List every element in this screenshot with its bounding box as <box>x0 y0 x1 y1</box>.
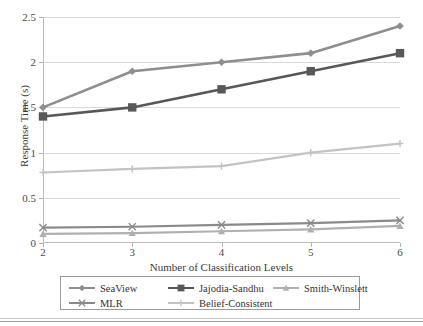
legend-label: Belief-Consistent <box>199 298 273 309</box>
chart-legend: SeaViewJajodia-SandhuSmith-WinslettMLRBe… <box>60 276 360 310</box>
data-point-marker <box>218 163 225 170</box>
y-tick-label: 1 <box>31 147 37 158</box>
data-point-marker <box>79 285 85 291</box>
data-point-marker <box>178 300 184 306</box>
series-seaview <box>39 22 404 111</box>
data-point-marker <box>396 22 404 30</box>
data-point-marker <box>307 149 314 156</box>
data-point-marker <box>396 49 404 57</box>
data-point-marker <box>129 165 136 172</box>
x-tick-label: 3 <box>130 247 136 258</box>
legend-label: Jajodia-Sandhu <box>199 283 264 294</box>
y-tick-label: 0 <box>31 238 37 249</box>
legend-square-icon <box>168 282 194 294</box>
legend-label: Smith-Winslett <box>304 283 368 294</box>
legend-label: MLR <box>100 298 123 309</box>
legend-plus-icon <box>168 297 194 309</box>
series-belief-consistent <box>39 140 403 176</box>
data-point-marker <box>396 140 403 147</box>
legend-item-belief-consistent[interactable]: Belief-Consistent <box>168 296 273 310</box>
data-point-marker <box>39 104 47 112</box>
data-series-layer <box>43 17 400 243</box>
legend-diamond-icon <box>69 282 95 294</box>
legend-item-mlr[interactable]: MLR <box>69 296 123 310</box>
legend-label: SeaView <box>100 283 137 294</box>
data-point-marker <box>218 58 226 66</box>
data-point-marker <box>307 49 315 57</box>
x-tick-label: 4 <box>219 247 225 258</box>
legend-item-smith-winslett[interactable]: Smith-Winslett <box>273 281 368 295</box>
footer-rule-bottom <box>0 321 423 322</box>
data-point-marker <box>307 67 315 75</box>
data-point-marker <box>128 67 136 75</box>
legend-item-seaview[interactable]: SeaView <box>69 281 137 295</box>
data-point-marker <box>79 300 85 306</box>
data-point-marker <box>39 112 47 120</box>
y-tick-label: 0.5 <box>22 192 36 203</box>
plot-area: 00.511.522.5 23456 <box>43 17 400 243</box>
legend-triangle-icon <box>273 282 299 294</box>
y-tick-label: 2.5 <box>22 12 36 23</box>
legend-cross-x-icon <box>69 297 95 309</box>
data-point-marker <box>39 169 46 176</box>
x-axis-title: Number of Classification Levels <box>43 261 400 273</box>
footer-rule-top <box>0 318 423 319</box>
y-tick-label: 1.5 <box>22 102 36 113</box>
series-line <box>43 26 400 107</box>
data-point-marker <box>217 85 225 93</box>
x-tick-label: 6 <box>397 247 403 258</box>
y-tick-label: 2 <box>31 57 37 68</box>
chart-figure: Response Time (s) 00.511.522.5 23456 Num… <box>0 0 423 326</box>
data-point-marker <box>283 285 289 291</box>
data-point-marker <box>178 285 185 292</box>
y-axis-title: Response Time (s) <box>18 56 30 196</box>
data-point-marker <box>128 103 136 111</box>
x-tick-label: 2 <box>40 247 46 258</box>
x-tick-label: 5 <box>308 247 314 258</box>
legend-item-jajodia-sandhu[interactable]: Jajodia-Sandhu <box>168 281 264 295</box>
